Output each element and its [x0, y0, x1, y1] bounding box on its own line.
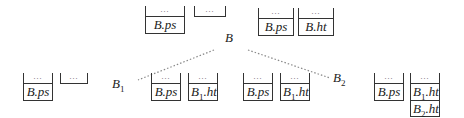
ellipsis: ... [299, 8, 333, 19]
stack-top-right-2: ... B.ht [298, 8, 334, 36]
ellipsis: ... [24, 73, 52, 84]
stack-b1-left: ... B.ps [23, 73, 53, 101]
stack-b2-right-2: ... B1.ht B2.ht [410, 73, 440, 117]
stack-b2-left-1: ... B.ps [243, 73, 273, 101]
node-b2: B2 [333, 70, 345, 88]
ellipsis: ... [189, 73, 217, 84]
ellipsis: ... [195, 6, 225, 16]
ellipsis: ... [375, 73, 403, 84]
stack-top-right-1: ... B.ps [258, 8, 294, 36]
ellipsis: ... [146, 6, 184, 17]
ellipsis: ... [244, 73, 272, 84]
stack-b1-right-2: ... B1.ht [188, 73, 218, 101]
ellipsis: ... [61, 73, 87, 83]
ellipsis: ... [411, 73, 439, 84]
node-b: B [225, 30, 233, 46]
stack-top-empty: ... [194, 6, 226, 17]
ellipsis: ... [259, 8, 293, 19]
stack-b2-left-2: ... B1.ht [280, 73, 310, 101]
node-b1: B1 [112, 76, 124, 94]
ellipsis: ... [152, 73, 180, 84]
stack-b2-right-1: ... B.ps [374, 73, 404, 101]
stack-top-left: ... B.ps [145, 6, 185, 34]
cell-b-ps: B.ps [146, 17, 184, 33]
stack-b1-empty: ... [60, 73, 88, 84]
stack-b1-right-1: ... B.ps [151, 73, 181, 101]
ellipsis: ... [281, 73, 309, 84]
